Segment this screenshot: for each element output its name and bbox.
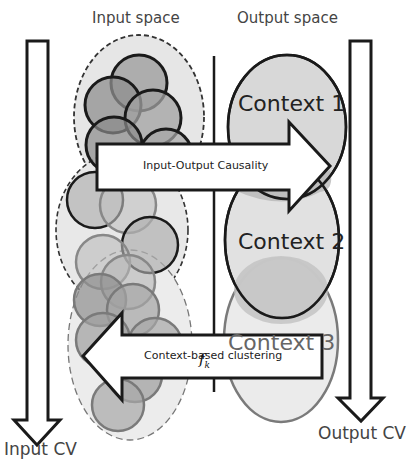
function-fk-label: fk <box>199 350 210 370</box>
context-2-label: Context 2 <box>238 229 345 254</box>
function-subscript: k <box>205 360 210 370</box>
diagram-canvas: Input space Output space Context 1 Conte… <box>0 0 420 467</box>
context-3-overlap <box>234 256 328 324</box>
context-1-label: Context 1 <box>238 91 345 116</box>
output-cv-label: Output CV <box>318 423 406 443</box>
input-space-header: Input space <box>92 9 180 27</box>
causality-arrow-label: Input-Output Causality <box>143 159 268 172</box>
clustering-arrow-label: Context-based clustering <box>144 349 282 362</box>
output-space-header: Output space <box>237 9 338 27</box>
input-cv-label: Input CV <box>4 439 77 459</box>
input-cv-arrow <box>14 41 60 445</box>
